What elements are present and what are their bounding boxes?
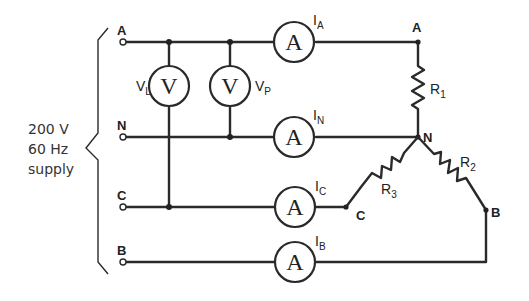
ammeter-symbol: A: [285, 124, 303, 150]
load-node-c-dot: [343, 204, 348, 209]
resistor-r2: [418, 137, 486, 210]
ammeter-ic-label: IC: [315, 178, 326, 197]
line-b-load: [316, 210, 486, 262]
ammeter-symbol: A: [285, 29, 303, 55]
load-node-a-dot: [415, 39, 420, 44]
terminal-label-c: C: [117, 188, 127, 203]
load-node-c-label: C: [356, 208, 366, 223]
voltmeter-vp: V: [210, 66, 250, 106]
terminal-label-b: B: [117, 243, 126, 258]
three-phase-circuit-diagram: 200 V 60 Hz supply A N C B V VL V VP A I…: [0, 0, 529, 301]
supply-brace: [86, 28, 108, 274]
ammeter-in: A: [274, 117, 314, 157]
load-node-a-label: A: [412, 20, 422, 35]
ammeter-symbol: A: [286, 194, 304, 220]
junction-dot: [166, 39, 172, 45]
voltmeter-vp-label: VP: [255, 78, 271, 97]
resistor-r2-label: R2: [460, 154, 476, 173]
load-node-b-label: B: [491, 205, 500, 220]
terminal-a: [120, 39, 126, 45]
terminal-c: [120, 204, 126, 210]
terminal-label-a: A: [117, 23, 127, 38]
resistor-r3-label: R3: [381, 181, 397, 200]
ammeter-ia: A: [274, 22, 314, 62]
resistor-r1-label: R1: [430, 81, 446, 100]
ammeter-ia-label: IA: [313, 12, 324, 31]
terminal-b: [120, 259, 126, 265]
terminal-label-n: N: [117, 118, 126, 133]
ammeter-in-label: IN: [313, 107, 324, 126]
junction-dot: [166, 204, 172, 210]
supply-voltage: 200 V: [28, 121, 69, 137]
ammeter-symbol: A: [286, 249, 304, 275]
ammeter-ib-label: IB: [315, 233, 326, 252]
voltmeter-vl: V: [149, 66, 189, 106]
terminal-n: [120, 134, 126, 140]
supply-frequency: 60 Hz: [28, 141, 68, 157]
ammeter-ic: A: [275, 187, 315, 227]
load-node-b-dot: [483, 207, 488, 212]
junction-dot: [227, 134, 233, 140]
resistor-r1: [412, 42, 424, 137]
ammeter-ib: A: [275, 242, 315, 282]
supply-label: supply: [28, 161, 74, 177]
junction-dot: [227, 39, 233, 45]
voltmeter-symbol: V: [160, 73, 178, 99]
voltmeter-symbol: V: [221, 73, 239, 99]
